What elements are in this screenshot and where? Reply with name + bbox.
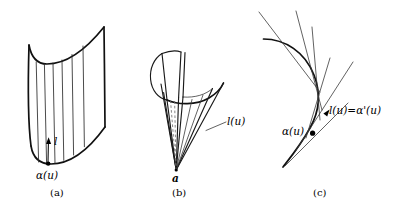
cylinder-ruling xyxy=(36,62,38,162)
cone-rim-back-right xyxy=(183,89,213,98)
cone-blade-right-edge xyxy=(183,53,185,98)
label-tangent-equals: = xyxy=(347,104,356,116)
panel-b-cone xyxy=(150,51,226,172)
tangent-line xyxy=(259,12,320,92)
cylinder-ruling xyxy=(83,46,84,147)
label-director-l-a: l xyxy=(54,136,57,147)
cone-rim-front-left xyxy=(162,51,181,53)
label-apex-a-b: a xyxy=(172,173,179,184)
cylinder-left-edge xyxy=(28,45,31,146)
base-curve-alpha xyxy=(264,39,319,167)
panel-c-tangent-developable xyxy=(259,11,353,167)
alpha-point-marker-a xyxy=(46,161,50,165)
cylinder-right-edge xyxy=(104,27,105,127)
cone-ruling xyxy=(176,89,212,171)
caption-a: (a) xyxy=(50,188,64,198)
caption-b: (b) xyxy=(172,188,186,198)
label-tangent-lhs: l(u) xyxy=(329,104,347,116)
cone-blade-mid-edge xyxy=(179,52,181,98)
cylinder-bottom-curve xyxy=(31,127,105,164)
label-tangent-identity-c: l(u)=α'(u) xyxy=(329,105,381,116)
cylinder-ruling xyxy=(44,64,46,164)
cone-rim-front-sweep xyxy=(167,83,224,104)
caption-c: (c) xyxy=(313,188,326,198)
cone-ruling xyxy=(161,84,176,170)
cone-label-leader xyxy=(206,122,226,131)
label-ruling-l-u-b: l(u) xyxy=(227,116,245,127)
cylinder-top-curve xyxy=(29,27,104,64)
figure-root: l α(u) (a) l(u) a (b) α(u) l(u)=α'(u) (c… xyxy=(0,0,399,211)
panel-a-cylinder xyxy=(28,27,105,166)
cylinder-ruling xyxy=(62,60,64,160)
alpha-point-marker-c xyxy=(310,131,315,136)
label-alpha-u-c: α(u) xyxy=(282,126,304,137)
label-alpha-u-a: α(u) xyxy=(36,170,58,181)
tangent-line xyxy=(306,58,330,138)
cylinder-ruling xyxy=(53,63,55,163)
director-arrowhead-icon xyxy=(46,137,51,144)
label-tangent-rhs: α'(u) xyxy=(356,104,381,116)
cylinder-ruling xyxy=(72,55,74,156)
